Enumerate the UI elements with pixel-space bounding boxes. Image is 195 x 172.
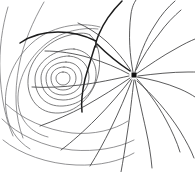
phase-portrait-figure [0, 0, 195, 172]
critical-point-node [132, 73, 137, 78]
critical-points-group [132, 73, 137, 78]
phase-portrait-canvas [0, 0, 195, 172]
